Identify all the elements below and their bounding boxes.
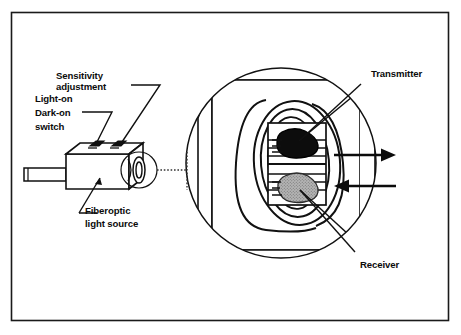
fiberoptic-label-line1: Fiberoptic	[85, 205, 131, 216]
lens-inner-ellipse	[136, 162, 142, 178]
fiberoptic-label-line2: light source	[85, 218, 138, 229]
sensitivity-label-line2: adjustment	[56, 81, 107, 92]
switch-label-line2: Dark-on	[35, 107, 71, 118]
sensitivity-label-line1: Sensitivity	[56, 70, 104, 81]
receiver-label: Receiver	[360, 259, 400, 270]
transmitter-label: Transmitter	[371, 68, 423, 79]
figure-root: Sensitivity adjustment Light-on Dark-on …	[0, 0, 461, 335]
sensor-diagram: Sensitivity adjustment Light-on Dark-on …	[0, 0, 461, 335]
sensor-cable	[24, 168, 66, 181]
cable-body	[24, 168, 66, 181]
switch-label-line1: Light-on	[35, 93, 73, 104]
switch-label-line3: switch	[35, 121, 64, 132]
